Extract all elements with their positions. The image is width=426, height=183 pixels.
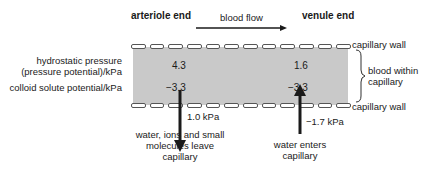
arteriole-colloid-value: −3.3 — [166, 82, 186, 93]
hydrostatic-pressure-label: hydrostatic pressure (pressure potential… — [0, 55, 122, 77]
outward-pressure-label: 1.0 kPa — [187, 111, 219, 122]
capillary-wall-bottom-label: capillary wall — [352, 101, 406, 112]
venule-hydrostatic-value: 1.6 — [294, 60, 308, 71]
blood-within-capillary-label: blood within capillary — [368, 65, 418, 87]
colloid-solute-potential-label: colloid solute potential/kPa — [0, 82, 122, 93]
blood-flow-arrow-icon — [196, 25, 287, 31]
arteriole-hydrostatic-value: 4.3 — [172, 60, 186, 71]
arteriole-end-header: arteriole end — [131, 10, 191, 21]
water-in-caption: water enters capillary — [262, 139, 338, 161]
brace-icon — [356, 50, 365, 102]
inward-pressure-label: −1.7 kPa — [306, 116, 344, 127]
capillary-wall-top-label: capillary wall — [352, 39, 406, 50]
water-out-caption: water, ions and small molecules leave ca… — [130, 129, 230, 162]
venule-end-header: venule end — [302, 10, 354, 21]
blood-flow-label: blood flow — [220, 12, 263, 23]
venule-colloid-value: −3.3 — [288, 82, 308, 93]
